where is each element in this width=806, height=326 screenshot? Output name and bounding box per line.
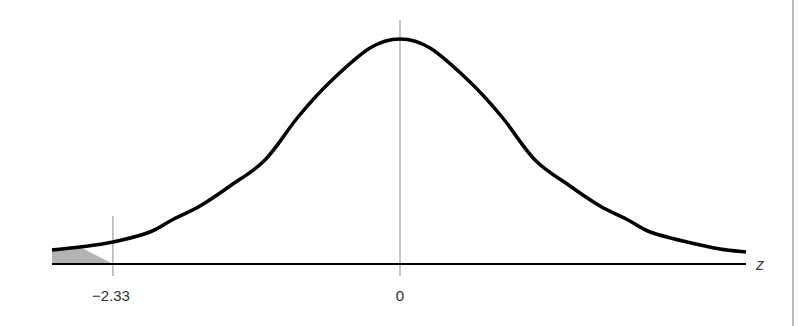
tick-label-critical-value: −2.33 xyxy=(92,287,130,304)
normal-curve-chart: −2.33 0 z xyxy=(0,0,806,326)
axis-label-z: z xyxy=(755,256,764,273)
page-border-line xyxy=(792,0,794,326)
tick-label-zero: 0 xyxy=(396,287,404,304)
normal-curve xyxy=(52,39,746,252)
